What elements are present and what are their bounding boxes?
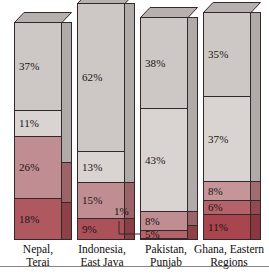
bar-segment-label: 9%: [78, 224, 97, 235]
bar-segment: 35%: [203, 12, 251, 96]
bar-segment: 43%: [140, 108, 188, 211]
x-axis-labels: Nepal, Terai Indonesia, East Java Pakist…: [0, 240, 269, 277]
bar-segment-label: 37%: [15, 61, 39, 72]
bar-group-ghana: 35% 37% 8% 6% 11%: [203, 12, 261, 240]
bar-group-nepal: 37% 11% 26% 18%: [14, 22, 72, 240]
bar-segment: 6%: [203, 200, 251, 214]
x-axis-label-line1: Ghana, Eastern: [194, 243, 264, 255]
bar-group-pakistan: 38% 43% 8% 5%: [140, 17, 198, 240]
bar-segment-label: 26%: [15, 162, 39, 173]
x-axis-label-line1: Pakistan,: [145, 243, 187, 255]
bar-segment-label: 13%: [78, 162, 102, 173]
bar-segment-label: 15%: [78, 195, 102, 206]
bar-segment: 13%: [77, 151, 125, 182]
bar-segment: 38%: [140, 17, 188, 108]
x-axis-label-line1: Nepal,: [23, 243, 53, 255]
axis-baseline-rule: [0, 266, 269, 267]
bar-segment: 37%: [203, 96, 251, 181]
callout-leader-line: [114, 206, 144, 240]
bar-segment: 11%: [14, 110, 62, 136]
x-axis-label-line1: Indonesia,: [78, 243, 126, 255]
bar-segment: 18%: [14, 198, 62, 240]
bar-stack-nepal: 37% 11% 26% 18%: [14, 22, 72, 240]
bar-segment-label: 18%: [15, 214, 39, 225]
bar-segment: 26%: [14, 136, 62, 198]
bar-segment-label: 38%: [141, 58, 165, 69]
bar-segment: 8%: [203, 181, 251, 200]
bar-segment: 5%: [140, 230, 188, 238]
callout-one-percent: 1%: [114, 206, 144, 240]
bar-segment: 62%: [77, 3, 125, 151]
bar-stack-pakistan: 38% 43% 8% 5%: [140, 17, 198, 240]
x-axis-label-line2: Regions: [188, 256, 269, 269]
bar-segment-label: 37%: [204, 134, 228, 145]
bar-segment-label: 11%: [15, 118, 39, 129]
bar-segment-label: 6%: [204, 202, 223, 213]
bar-stack-ghana: 35% 37% 8% 6% 11%: [203, 12, 261, 240]
bar-segment-label: 35%: [204, 49, 228, 60]
stacked-bar-chart: 37% 11% 26% 18% 62% 1: [0, 0, 269, 277]
bar-segment: 11%: [203, 214, 251, 240]
bar-segment-label: 8%: [204, 186, 223, 197]
bar-segment: 37%: [14, 22, 62, 110]
bar-segment-label: 11%: [204, 222, 228, 233]
bar-segment-label: 43%: [141, 155, 165, 166]
bar-segment-label: 62%: [78, 72, 102, 83]
